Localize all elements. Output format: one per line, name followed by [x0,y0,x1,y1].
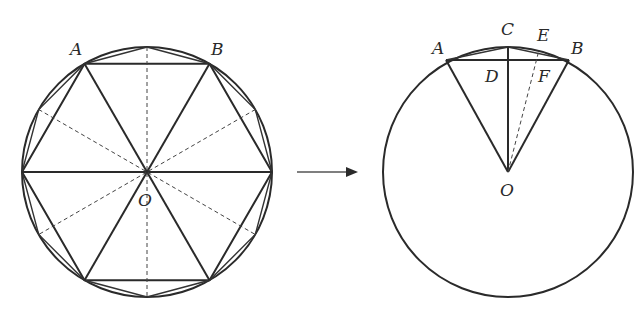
transition-arrow [297,167,358,177]
dashed-oe [508,50,539,172]
label-a-right: A [430,38,444,58]
label-b-right: B [570,38,584,58]
arrow-head-icon [346,167,358,177]
radius-lower-right [147,172,210,280]
label-b-left: B [210,39,224,59]
label-a-left: A [68,39,82,59]
radius-oa-right [446,60,508,172]
label-o-left: O [138,190,152,210]
label-c-right: C [501,19,514,39]
label-o-right: O [500,180,514,200]
radius-oa [85,64,148,172]
radius-ob [147,64,210,172]
label-f-right: F [537,66,551,86]
label-e-right: E [536,25,550,45]
label-d-right: D [484,66,499,86]
left-figure: A B O [22,39,272,297]
right-figure: A C E B D F O [383,19,633,297]
diagram-canvas: A B O A C E B D F O [0,0,644,325]
radius-lower-left [85,172,148,280]
